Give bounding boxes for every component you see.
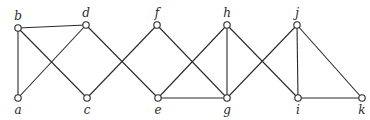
node-label-h: h [223, 6, 231, 20]
edge-b-d [18, 25, 86, 28]
node-label-d: d [82, 6, 90, 20]
node-h [224, 22, 230, 28]
node-g [224, 95, 230, 101]
edges-layer [18, 25, 362, 98]
node-e [155, 95, 161, 101]
edge-j-i [297, 25, 298, 98]
node-c [84, 95, 90, 101]
node-label-b: b [14, 9, 22, 23]
node-i [295, 95, 301, 101]
graph-diagram: abcdefghijk [0, 0, 370, 120]
node-a [15, 95, 21, 101]
node-label-e: e [154, 103, 161, 117]
node-label-f: f [154, 6, 162, 20]
edge-j-k [297, 25, 362, 98]
node-b [15, 25, 21, 31]
node-label-a: a [14, 103, 21, 117]
nodes-layer [15, 22, 365, 101]
node-k [359, 95, 365, 101]
labels-layer: abcdefghijk [14, 6, 365, 117]
node-label-k: k [358, 103, 365, 117]
node-label-i: i [296, 103, 300, 117]
node-label-g: g [223, 103, 231, 117]
node-d [83, 22, 89, 28]
node-f [154, 22, 160, 28]
node-j [294, 22, 300, 28]
node-label-c: c [84, 103, 91, 117]
node-label-j: j [292, 6, 299, 20]
